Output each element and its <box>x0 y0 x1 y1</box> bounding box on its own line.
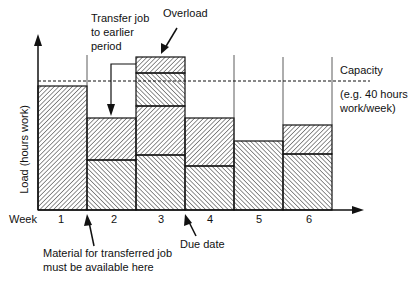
week-label-6: 6 <box>306 213 312 226</box>
due-date-arrow <box>189 222 196 236</box>
due-date-label: Due date <box>180 238 225 251</box>
capacity-note-line1: (e.g. 40 hours <box>340 88 408 101</box>
bar-week-6-bottom <box>283 154 332 210</box>
week-label-5: 5 <box>256 213 262 226</box>
bar-week-4-top <box>185 118 234 166</box>
transfer-label-line3: period <box>91 40 122 53</box>
material-label-line2: must be available here <box>43 261 154 274</box>
material-label-line1: Material for transferred job <box>43 247 172 260</box>
bar-week-4-bottom <box>185 166 234 210</box>
week-label-4: 4 <box>207 213 213 226</box>
overload-label: Overload <box>163 7 208 20</box>
material-arrow <box>89 222 94 246</box>
x-axis-prefix: Week <box>9 213 37 226</box>
bar-week-5 <box>234 141 283 210</box>
bar-week-3-overload <box>136 57 185 73</box>
bar-week-2-bottom <box>87 160 136 210</box>
week-label-2: 2 <box>111 213 117 226</box>
bar-week-3-bottom <box>136 155 185 210</box>
bar-week-3-middle <box>136 106 185 155</box>
transfer-arrow <box>111 64 136 110</box>
transfer-label-line2: to earlier <box>91 26 134 39</box>
bar-week-1 <box>38 86 87 210</box>
y-axis-arrow-icon <box>34 34 42 46</box>
capacity-note-line2: work/week) <box>340 102 396 115</box>
bar-week-2-top <box>87 118 136 160</box>
y-axis-label: Load (hours work) <box>18 100 31 200</box>
overload-arrow <box>165 28 177 48</box>
capacity-label: Capacity <box>340 64 383 77</box>
x-axis-arrow-icon <box>352 206 364 214</box>
week-label-1: 1 <box>58 213 64 226</box>
week-label-3: 3 <box>158 213 164 226</box>
bar-week-6-top <box>283 125 332 154</box>
bar-week-3-upper <box>136 73 185 106</box>
transfer-arrow-head-icon <box>107 104 115 116</box>
transfer-label-line1: Transfer job <box>91 12 149 25</box>
material-arrow-head-icon <box>84 214 92 226</box>
